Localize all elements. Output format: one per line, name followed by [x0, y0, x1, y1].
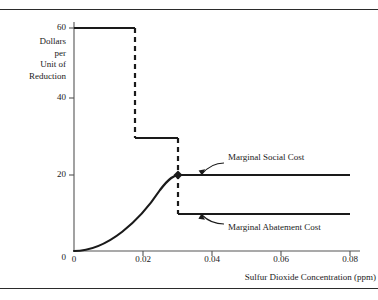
- y-axis-title-line-2: per: [6, 48, 66, 60]
- x-tick-label-006: 0.06: [263, 254, 299, 264]
- x-tick-label-0: 0: [64, 254, 84, 264]
- y-tick-label-20: 20: [44, 169, 66, 179]
- y-tick-label-40: 40: [44, 92, 66, 102]
- mac-annotation-leader: [202, 215, 224, 224]
- y-axis-title: Dollars per Unit of Reduction: [6, 36, 66, 82]
- y-tick-label-60: 60: [44, 22, 66, 32]
- equilibrium-marker: [174, 171, 183, 180]
- x-axis-title: Sulfur Dioxide Concentration (ppm): [150, 272, 376, 282]
- x-tick-label-002: 0.02: [125, 254, 161, 264]
- y-axis-title-line-3: Unit of: [6, 59, 66, 71]
- y-tick-label-0: 0: [44, 252, 66, 262]
- annotation-marginal-abatement-cost: Marginal Abatement Cost: [228, 222, 321, 232]
- x-tick-label-008: 0.08: [332, 254, 368, 264]
- annotation-marginal-social-cost: Marginal Social Cost: [228, 152, 304, 162]
- msc-curve: [74, 175, 178, 251]
- x-tick-label-004: 0.04: [194, 254, 230, 264]
- figure-container: 60 40 20 0 0 0.02 0.04 0.06 0.08 Dollars…: [0, 0, 378, 300]
- msc-annotation-leader: [202, 163, 224, 174]
- y-axis-title-line-4: Reduction: [6, 71, 66, 83]
- y-axis-title-line-1: Dollars: [6, 36, 66, 48]
